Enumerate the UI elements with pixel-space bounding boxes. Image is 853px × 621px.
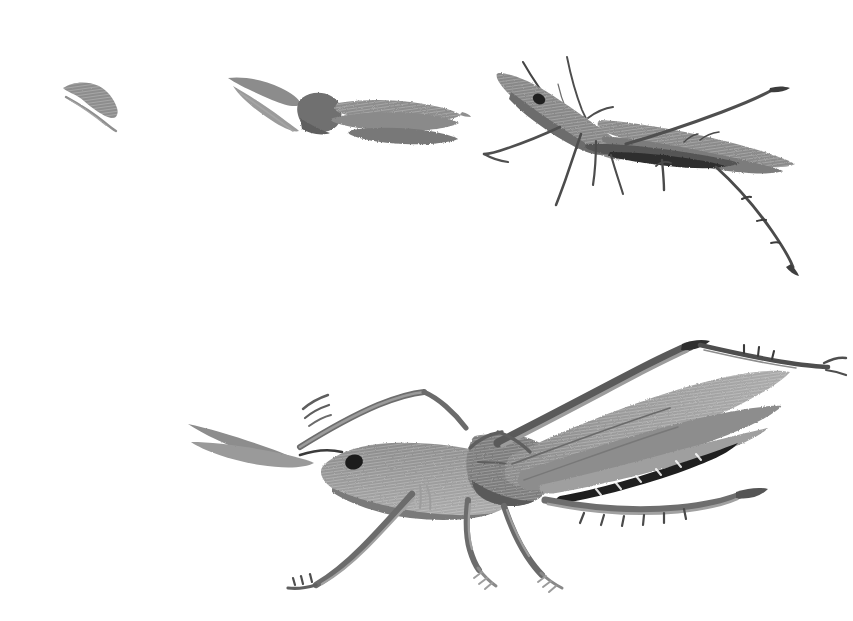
stage3-tibia-spine-c [771, 242, 780, 243]
stage4-palp-a [420, 485, 421, 508]
illustration-canvas [0, 0, 853, 621]
insect-growth-stages-drawing [0, 0, 853, 621]
paper-background [0, 0, 853, 621]
